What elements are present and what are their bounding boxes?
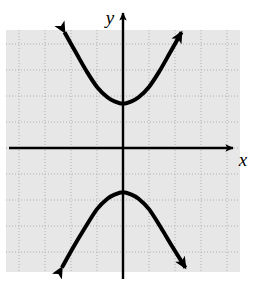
hyperbola-figure: y x xyxy=(0,0,266,281)
y-axis-label: y xyxy=(104,7,115,28)
graph-canvas: y x xyxy=(0,0,266,281)
x-axis-label: x xyxy=(238,149,248,170)
